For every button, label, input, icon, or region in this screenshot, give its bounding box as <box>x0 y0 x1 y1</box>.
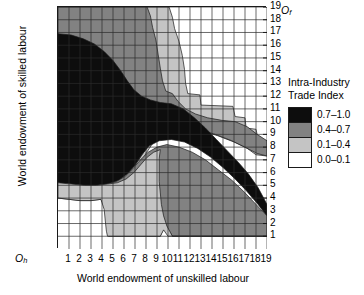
legend-entry-label: 0.0–0.1 <box>317 152 350 167</box>
legend-body: 0.7–1.00.4–0.70.1–0.40.0–0.1 <box>288 107 364 168</box>
legend-entry-label: 0.1–0.4 <box>317 137 350 152</box>
x-tick-label: 19 <box>259 253 273 264</box>
y-tick-label: 2 <box>270 217 286 228</box>
legend-entry-label: 0.4–0.7 <box>317 122 350 137</box>
y-tick-label: 9 <box>270 127 286 138</box>
y-tick-label: 17 <box>270 25 286 36</box>
chart-figure: World endowment of skilled labour World … <box>0 0 364 295</box>
y-tick-label: 13 <box>270 76 286 87</box>
y-tick-label: 16 <box>270 38 286 49</box>
legend-labels: 0.7–1.00.4–0.70.1–0.40.0–0.1 <box>317 107 350 167</box>
legend-swatches <box>288 107 312 168</box>
legend-swatch <box>289 138 311 153</box>
y-tick-label: 10 <box>270 115 286 126</box>
y-tick-label: 6 <box>270 166 286 177</box>
legend-title-line1: Intra-Industry <box>288 76 364 89</box>
y-axis-title: World endowment of skilled labour <box>16 6 28 206</box>
origin-label-h: Oh <box>15 252 27 265</box>
legend-swatch <box>289 108 311 123</box>
origin-h-letter: O <box>15 252 23 264</box>
y-tick-label: 5 <box>270 178 286 189</box>
y-tick-label: 15 <box>270 51 286 62</box>
y-tick-label: 7 <box>270 153 286 164</box>
origin-f-subscript: f <box>289 8 291 17</box>
y-tick-label: 4 <box>270 191 286 202</box>
legend: Intra-Industry Trade Index 0.7–1.00.4–0.… <box>288 76 364 168</box>
y-tick-label: 8 <box>270 140 286 151</box>
legend-swatch <box>289 153 311 167</box>
y-tick-label: 11 <box>270 102 286 113</box>
legend-title-line2: Trade Index <box>288 89 364 102</box>
x-axis-title: World endowment of unskilled labour <box>38 272 288 284</box>
y-tick-label: 1 <box>270 229 286 240</box>
y-tick-label: 12 <box>270 89 286 100</box>
y-tick-label: 14 <box>270 64 286 75</box>
y-tick-label: 19 <box>270 0 286 11</box>
y-tick-label: 3 <box>270 204 286 215</box>
origin-h-subscript: h <box>23 256 27 265</box>
plot-area <box>57 6 266 248</box>
legend-swatch <box>289 123 311 138</box>
legend-entry-label: 0.7–1.0 <box>317 107 350 122</box>
y-tick-label: 18 <box>270 13 286 24</box>
heatmap-bands <box>58 7 267 249</box>
legend-title: Intra-Industry Trade Index <box>288 76 364 101</box>
